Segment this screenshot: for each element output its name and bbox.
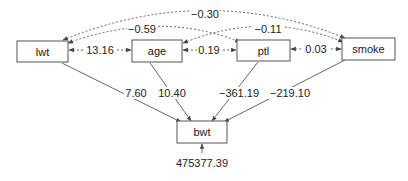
path-coefficient: −219.10 xyxy=(270,87,310,99)
node-smoke: smoke xyxy=(342,38,395,60)
node-label: bwt xyxy=(193,126,210,138)
path-coefficient: 10.40 xyxy=(158,87,186,99)
node-bwt: bwt xyxy=(177,121,227,143)
covariance-label: 13.16 xyxy=(86,44,114,56)
path-coefficient: 7.60 xyxy=(125,87,146,99)
node-label: lwt xyxy=(36,46,49,58)
covariance-label: 0.19 xyxy=(198,44,219,56)
node-label: smoke xyxy=(352,43,384,55)
node-ptl: ptl xyxy=(237,40,290,61)
error-bwt: 475377.39 xyxy=(176,144,228,169)
covariance-label: −0.59 xyxy=(128,23,156,35)
path-age-bwt: 10.40 xyxy=(150,63,191,121)
covariance-age-ptl: 0.19 xyxy=(183,44,236,56)
covariance-ptl-smoke: 0.03 xyxy=(291,43,341,55)
node-label: ptl xyxy=(258,45,270,57)
covariance-lwt-age: 13.16 xyxy=(69,44,131,56)
node-age: age xyxy=(132,40,182,62)
covariance-label: 0.03 xyxy=(305,43,326,55)
error-variance-label: 475377.39 xyxy=(176,157,228,169)
path-diagram: −0.30 −0.59 −0.11 13.16 0.19 0.03 7.60 1… xyxy=(0,0,408,181)
covariance-label: −0.11 xyxy=(254,23,281,35)
path-coefficient: −361.19 xyxy=(219,87,259,99)
path-ptl-bwt: −361.19 xyxy=(212,62,260,121)
node-label: age xyxy=(148,45,166,57)
covariance-lwt-smoke: −0.30 xyxy=(63,8,345,40)
covariance-label: −0.30 xyxy=(191,8,219,20)
node-lwt: lwt xyxy=(17,41,68,62)
